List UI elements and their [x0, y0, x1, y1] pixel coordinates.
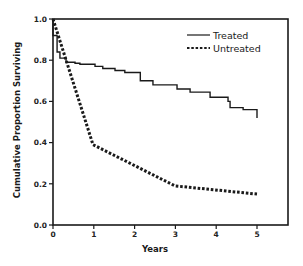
x-tick-label: 5 [254, 230, 259, 239]
y-tick-label: 0.8 [34, 56, 47, 65]
y-tick-label: 0.4 [34, 138, 47, 147]
survival-chart: 0.00.20.40.60.81.0 012345 TreatedUntreat… [0, 0, 303, 266]
y-axis-title: Cumulative Proportion Surviving [12, 42, 22, 199]
x-tick-label: 1 [91, 230, 96, 239]
legend-label-untreated: Untreated [213, 43, 261, 54]
y-tick-label: 0.6 [34, 97, 47, 106]
x-tick-label: 0 [50, 230, 55, 239]
x-axis-ticks: 012345 [50, 225, 259, 239]
y-tick-label: 1.0 [34, 15, 47, 24]
legend-label-treated: Treated [212, 30, 248, 41]
legend: TreatedUntreated [187, 30, 261, 54]
x-tick-label: 3 [173, 230, 178, 239]
x-tick-label: 2 [132, 230, 137, 239]
y-axis-ticks: 0.00.20.40.60.81.0 [34, 15, 53, 230]
x-axis-title: Years [141, 244, 168, 254]
y-tick-label: 0.0 [34, 221, 47, 230]
x-tick-label: 4 [214, 230, 219, 239]
y-tick-label: 0.2 [34, 180, 47, 189]
